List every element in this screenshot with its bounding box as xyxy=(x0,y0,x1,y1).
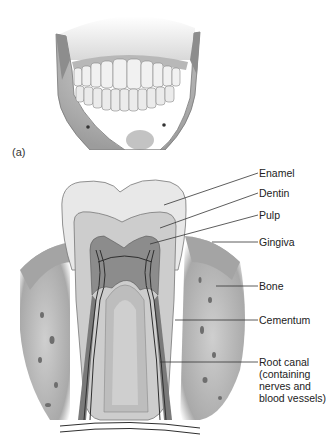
label-bone: Bone xyxy=(259,280,284,292)
label-cementum: Cementum xyxy=(259,314,310,326)
label-root-canal: Root canal (containing nerves and blood … xyxy=(259,356,329,404)
label-dentin: Dentin xyxy=(259,187,289,199)
label-enamel: Enamel xyxy=(259,167,295,179)
label-gingiva: Gingiva xyxy=(259,236,295,248)
jaw-illustration xyxy=(0,0,329,150)
label-pulp: Pulp xyxy=(259,209,280,221)
